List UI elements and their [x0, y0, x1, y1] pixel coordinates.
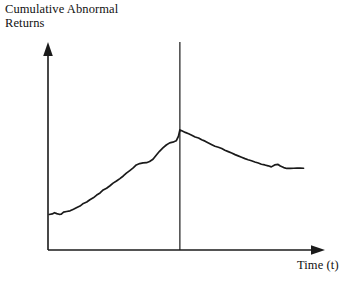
x-axis-arrowhead [311, 245, 325, 255]
y-axis-label: Cumulative Abnormal Returns [5, 2, 118, 30]
x-axis-label: Time (t) [297, 258, 339, 272]
y-axis-arrowhead [43, 42, 53, 56]
axes-group [43, 42, 325, 255]
cumulative-abnormal-returns-chart: Cumulative Abnormal Returns Time (t) [0, 0, 359, 283]
chart-plot-area [0, 0, 359, 283]
cumulative-abnormal-returns-curve [49, 130, 303, 215]
